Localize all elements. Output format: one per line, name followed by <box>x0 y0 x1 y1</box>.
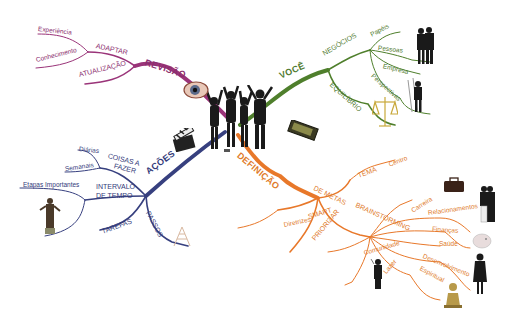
clapperboard-icon <box>172 128 198 152</box>
business-people-icon <box>414 26 436 66</box>
mind-map: REVISÃO ADAPTAR ATUALIZAÇÃO Experiência … <box>0 0 519 329</box>
revisao-branch <box>36 34 228 118</box>
group-of-people-jumping-icon <box>202 85 278 155</box>
piggy-bank-icon <box>472 232 492 250</box>
gold-bar-icon <box>286 120 320 142</box>
eye-icon <box>183 80 209 100</box>
briefcase-icon <box>443 177 465 193</box>
golfer-icon <box>370 258 386 290</box>
ladder-climber-icon <box>406 78 424 114</box>
node-intervalo-line2[interactable]: DE TEMPO <box>96 192 132 199</box>
ladder-icon <box>172 226 194 248</box>
node-intervalo-line1[interactable]: INTERVALO <box>96 183 135 190</box>
couple-icon <box>478 184 496 226</box>
buddha-statue-icon <box>443 282 463 308</box>
woman-icon <box>472 252 488 296</box>
statue-figure-icon <box>38 196 62 236</box>
leaf-etapas-importantes[interactable]: Etapas Importantes <box>23 182 79 189</box>
leaf-saude[interactable]: Saúde <box>439 241 458 248</box>
